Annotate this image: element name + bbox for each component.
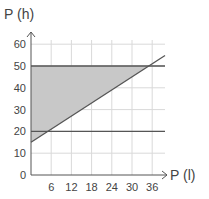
y-tick-label: 10 xyxy=(14,147,26,159)
y-tick-label: 50 xyxy=(14,60,26,72)
y-tick-label: 0 xyxy=(20,169,26,181)
x-tick-label: 12 xyxy=(65,181,77,193)
x-tick-label: 30 xyxy=(126,181,138,193)
chart: 010203040506061218243036 P (h) P (l) xyxy=(0,0,209,199)
y-tick-label: 40 xyxy=(14,82,26,94)
x-tick-label: 24 xyxy=(106,181,118,193)
x-tick-label: 6 xyxy=(48,181,54,193)
y-axis-label: P (h) xyxy=(4,6,34,22)
x-axis-label: P (l) xyxy=(170,167,195,183)
x-tick-label: 36 xyxy=(146,181,158,193)
y-tick-label: 20 xyxy=(14,125,26,137)
y-tick-label: 30 xyxy=(14,104,26,116)
y-tick-label: 60 xyxy=(14,38,26,50)
x-tick-label: 18 xyxy=(85,181,97,193)
